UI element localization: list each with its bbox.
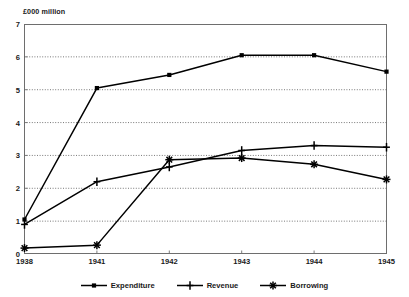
x-axis-label-1941: 1941 bbox=[88, 257, 105, 266]
series-expenditure-pt-1-marker-square bbox=[95, 86, 99, 90]
legend-label-borrowing: Borrowing bbox=[290, 281, 328, 290]
y-axis-label-3: 3 bbox=[4, 151, 20, 160]
plot-area bbox=[24, 24, 387, 254]
legend-marker-borrowing-icon bbox=[260, 280, 286, 291]
x-axis-label-1938: 1938 bbox=[16, 257, 33, 266]
series-line-revenue bbox=[25, 146, 387, 225]
legend-item-revenue[interactable]: Revenue bbox=[177, 280, 239, 291]
legend-item-borrowing[interactable]: Borrowing bbox=[260, 280, 328, 291]
legend-label-expenditure: Expenditure bbox=[111, 281, 155, 290]
x-axis-label-1945: 1945 bbox=[378, 257, 395, 266]
y-axis-label-6: 6 bbox=[4, 52, 20, 61]
legend-expenditure-marker-square bbox=[92, 283, 96, 287]
x-axis-label-1943: 1943 bbox=[233, 257, 250, 266]
line-chart: £000 million 01234567 193819411942194319… bbox=[0, 0, 409, 297]
y-axis-label-7: 7 bbox=[4, 20, 20, 29]
series-expenditure bbox=[22, 53, 388, 221]
series-expenditure-pt-5-marker-square bbox=[384, 70, 388, 74]
legend-label-revenue: Revenue bbox=[207, 281, 239, 290]
series-expenditure-pt-2-marker-square bbox=[167, 73, 171, 77]
series-line-borrowing bbox=[25, 158, 387, 248]
y-axis-label-5: 5 bbox=[4, 85, 20, 94]
series-line-expenditure bbox=[25, 55, 387, 219]
series-expenditure-pt-3-marker-square bbox=[240, 53, 244, 57]
y-axis-unit-caption: £000 million bbox=[23, 7, 65, 16]
x-axis-label-1944: 1944 bbox=[306, 257, 323, 266]
y-axis-ticks: 01234567 bbox=[0, 24, 20, 254]
legend-marker-expenditure-icon bbox=[81, 280, 107, 291]
y-axis-label-2: 2 bbox=[4, 184, 20, 193]
series-revenue bbox=[21, 141, 390, 228]
series-borrowing bbox=[21, 154, 391, 252]
legend-item-expenditure[interactable]: Expenditure bbox=[81, 280, 155, 291]
x-axis-label-1942: 1942 bbox=[161, 257, 178, 266]
y-axis-label-1: 1 bbox=[4, 217, 20, 226]
legend-marker-revenue-icon bbox=[177, 280, 203, 291]
chart-legend: ExpenditureRevenueBorrowing bbox=[0, 277, 409, 293]
x-axis-ticks: 193819411942194319441945 bbox=[24, 257, 387, 271]
y-axis-label-4: 4 bbox=[4, 118, 20, 127]
series-expenditure-pt-4-marker-square bbox=[312, 53, 316, 57]
